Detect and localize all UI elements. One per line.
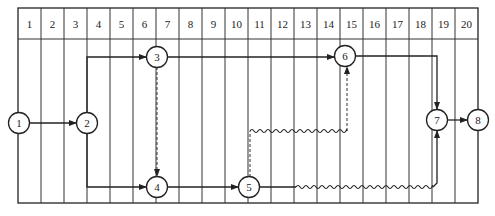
- column-headers: 1234567891011121314151617181920: [27, 18, 473, 30]
- column-header-12: 12: [277, 18, 288, 30]
- edge-2-4: [87, 133, 146, 187]
- node-4: 4: [147, 177, 168, 198]
- node-label: 2: [84, 117, 90, 129]
- column-header-2: 2: [50, 18, 56, 30]
- node-3: 3: [147, 47, 168, 68]
- node-8: 8: [468, 110, 489, 131]
- column-header-19: 19: [438, 18, 450, 30]
- column-header-18: 18: [415, 18, 427, 30]
- column-header-13: 13: [300, 18, 312, 30]
- column-header-9: 9: [211, 18, 217, 30]
- column-header-6: 6: [142, 18, 148, 30]
- column-header-16: 16: [369, 18, 381, 30]
- node-label: 5: [246, 181, 252, 193]
- column-header-15: 15: [346, 18, 358, 30]
- edge-5-6-float-wave: [250, 130, 347, 133]
- node-label: 1: [16, 117, 22, 129]
- column-header-4: 4: [96, 18, 102, 30]
- node-7: 7: [427, 110, 448, 131]
- node-6: 6: [335, 46, 356, 67]
- node-label: 8: [475, 114, 481, 126]
- column-header-17: 17: [392, 18, 404, 30]
- node-label: 3: [154, 51, 160, 63]
- column-header-8: 8: [188, 18, 194, 30]
- column-header-10: 10: [231, 18, 243, 30]
- column-header-20: 20: [461, 18, 473, 30]
- edge-2-3: [87, 57, 146, 113]
- node-5: 5: [239, 177, 260, 198]
- edge-5-7-up: [433, 131, 437, 187]
- node-label: 7: [434, 114, 440, 126]
- column-header-7: 7: [165, 18, 171, 30]
- network-diagram: 1234567891011121314151617181920 12345678: [0, 0, 495, 216]
- edge-6-7: [356, 56, 437, 109]
- column-header-11: 11: [254, 18, 265, 30]
- column-header-5: 5: [119, 18, 125, 30]
- node-1: 1: [9, 113, 30, 134]
- node-2: 2: [77, 113, 98, 134]
- column-header-3: 3: [73, 18, 79, 30]
- column-header-1: 1: [27, 18, 33, 30]
- node-label: 6: [342, 50, 348, 62]
- column-header-14: 14: [323, 18, 335, 30]
- node-label: 4: [154, 181, 160, 193]
